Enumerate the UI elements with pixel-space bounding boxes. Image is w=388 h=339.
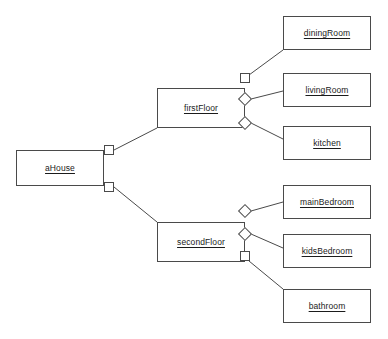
square-connector-c-house-second[interactable] xyxy=(104,182,114,192)
square-connector-c-first-dining[interactable] xyxy=(240,73,250,83)
edge-firstFloor-to-kitchen xyxy=(251,123,283,139)
edge-secondFloor-to-bathroom xyxy=(249,261,283,289)
node-kidsBedroom[interactable]: kidsBedroom xyxy=(283,234,371,268)
node-mainBedroom[interactable]: mainBedroom xyxy=(283,185,371,219)
node-label-bathroom: bathroom xyxy=(309,301,346,311)
edge-aHouse-to-secondFloor xyxy=(114,187,157,222)
square-connector-c-house-first[interactable] xyxy=(104,145,114,155)
node-label-aHouse: aHouse xyxy=(45,163,75,173)
node-secondFloor[interactable]: secondFloor xyxy=(157,222,245,262)
edge-aHouse-to-firstFloor xyxy=(114,128,157,150)
node-label-kitchen: kitchen xyxy=(313,138,341,148)
object-diagram-canvas: aHousefirstFloorsecondFloordiningRoomliv… xyxy=(0,0,388,339)
edge-secondFloor-to-mainBedroom xyxy=(251,202,283,211)
node-bathroom[interactable]: bathroom xyxy=(283,289,371,323)
square-connector-c-second-bath[interactable] xyxy=(240,251,250,261)
node-kitchen[interactable]: kitchen xyxy=(283,126,371,160)
node-label-kidsBedroom: kidsBedroom xyxy=(302,246,353,256)
edge-firstFloor-to-diningRoom xyxy=(249,50,283,75)
node-aHouse[interactable]: aHouse xyxy=(16,150,104,186)
node-diningRoom[interactable]: diningRoom xyxy=(283,16,371,50)
edge-secondFloor-to-kidsBedroom xyxy=(251,234,283,248)
node-label-mainBedroom: mainBedroom xyxy=(300,197,354,207)
node-label-diningRoom: diningRoom xyxy=(304,28,350,38)
edge-firstFloor-to-livingRoom xyxy=(251,91,283,99)
node-livingRoom[interactable]: livingRoom xyxy=(283,73,371,107)
node-label-firstFloor: firstFloor xyxy=(184,103,218,113)
node-label-livingRoom: livingRoom xyxy=(305,85,348,95)
node-label-secondFloor: secondFloor xyxy=(177,237,225,247)
node-firstFloor[interactable]: firstFloor xyxy=(157,88,245,128)
